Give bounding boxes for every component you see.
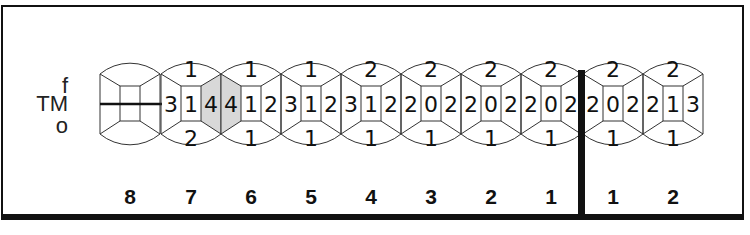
tooth-left-1: 20122 — [521, 57, 581, 151]
value-left: 2 — [586, 92, 600, 117]
tooth-left-3: 20122 — [401, 57, 461, 151]
value-left: 3 — [284, 92, 298, 117]
tooth-left-6: 11142 — [221, 57, 281, 151]
value-left: 3 — [164, 92, 178, 117]
value-furcation: 1 — [184, 57, 198, 82]
value-occlusion: 1 — [484, 126, 498, 151]
tooth-number: 1 — [536, 185, 566, 209]
value-occlusion: 1 — [424, 126, 438, 151]
value-occlusion: 1 — [544, 126, 558, 151]
value-mobility: 1 — [244, 92, 258, 117]
value-left: 2 — [464, 92, 478, 117]
tooth-number: 3 — [416, 185, 446, 209]
tooth-left-7: 11234 — [161, 57, 221, 151]
value-furcation: 2 — [424, 57, 438, 82]
value-mobility: 0 — [484, 92, 498, 117]
value-left: 2 — [646, 92, 660, 117]
value-left: 2 — [404, 92, 418, 117]
tooth-number: 1 — [598, 185, 628, 209]
tooth-right-2: 21123 — [643, 57, 703, 151]
tooth-number: 8 — [115, 185, 145, 209]
value-occlusion: 2 — [184, 126, 198, 151]
value-left: 2 — [524, 92, 538, 117]
value-left: 4 — [224, 92, 238, 117]
value-furcation: 2 — [544, 57, 558, 82]
value-furcation: 2 — [666, 57, 680, 82]
tooth-number: 2 — [476, 185, 506, 209]
value-mobility: 0 — [544, 92, 558, 117]
value-right: 4 — [204, 92, 218, 117]
value-occlusion: 1 — [606, 126, 620, 151]
value-furcation: 1 — [304, 57, 318, 82]
value-furcation: 2 — [484, 57, 498, 82]
value-right: 3 — [686, 92, 700, 117]
value-occlusion: 1 — [304, 126, 318, 151]
tooth-left-5: 11132 — [281, 57, 341, 151]
value-furcation: 2 — [606, 57, 620, 82]
tooth-number: 2 — [658, 185, 688, 209]
value-right: 2 — [564, 92, 578, 117]
tooth-right-1: 20122 — [583, 57, 643, 151]
tooth-number: 4 — [356, 185, 386, 209]
value-occlusion: 1 — [244, 126, 258, 151]
value-right: 2 — [324, 92, 338, 117]
value-right: 2 — [626, 92, 640, 117]
tooth-number: 6 — [236, 185, 266, 209]
value-right: 2 — [264, 92, 278, 117]
tooth-left-2: 20122 — [461, 57, 521, 151]
midline-divider — [578, 70, 585, 220]
value-mobility: 1 — [364, 92, 378, 117]
value-furcation: 1 — [244, 57, 258, 82]
value-mobility: 1 — [184, 92, 198, 117]
tooth-number: 7 — [176, 185, 206, 209]
value-mobility: 1 — [304, 92, 318, 117]
value-mobility: 0 — [606, 92, 620, 117]
value-right: 2 — [384, 92, 398, 117]
value-right: 2 — [444, 92, 458, 117]
tooth-number: 5 — [296, 185, 326, 209]
tooth-left-8 — [100, 63, 162, 145]
value-mobility: 0 — [424, 92, 438, 117]
tooth-left-4: 21132 — [341, 57, 401, 151]
value-right: 2 — [504, 92, 518, 117]
value-occlusion: 1 — [364, 126, 378, 151]
value-mobility: 1 — [666, 92, 680, 117]
value-furcation: 2 — [364, 57, 378, 82]
value-left: 3 — [344, 92, 358, 117]
value-occlusion: 1 — [666, 126, 680, 151]
